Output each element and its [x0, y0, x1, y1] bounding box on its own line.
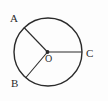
point-label-b: B: [11, 78, 18, 89]
point-label-c: C: [86, 48, 93, 59]
radius-oa-line: [24, 28, 48, 53]
circle-diagram-figure: A B C O: [0, 0, 108, 101]
center-label-o: O: [45, 54, 52, 64]
point-label-a: A: [10, 13, 18, 24]
